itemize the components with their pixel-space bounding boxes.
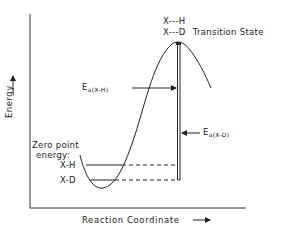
ts-label-xd-text: X---D [163,27,186,37]
zpe-xh-label: X-H [60,160,76,170]
y-axis-label: Energy [4,85,14,118]
x-axis-label: Reaction Coordinate [82,215,180,225]
ea-xd-label: Ea(X-D) [203,127,229,140]
ts-label-title: Transition State [193,27,264,37]
zpe-title-line1: Zero point [32,140,79,150]
ts-label-xh: X---H [163,16,186,26]
energy-curve [80,42,211,188]
zpe-title-line2: energy: [36,150,70,160]
zpe-xd-label: X-D [60,175,76,185]
ts-label-xd: X---D Transition State [163,27,264,37]
ts-peak-marker [176,42,181,45]
ea-xd-subscript: a(X-D) [209,131,230,138]
ea-xh-label: Ea(X-H) [82,82,108,95]
ea-xh-subscript: a(X-H) [88,86,109,93]
